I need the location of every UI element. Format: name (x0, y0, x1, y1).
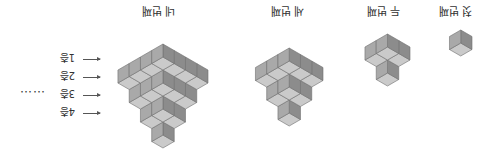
figure-4-label: 네 번째 (142, 4, 176, 20)
diagram-stage: 첫 번째 두 번째 세 번째 네 번째 4층 3층 2층 1층 …… (0, 0, 497, 160)
figure-4-cube-stack (115, 38, 210, 150)
figure-1-label: 첫 번째 (439, 4, 473, 20)
figure-3-label: 세 번째 (271, 4, 305, 20)
isometric-cubes (362, 32, 412, 88)
isometric-cubes (115, 42, 210, 150)
isometric-cubes (253, 46, 325, 128)
floor-label-2: 2층 (60, 69, 75, 84)
figure-3-cube-stack (253, 42, 325, 128)
floor-label-1: 1층 (60, 51, 75, 66)
isometric-cubes (447, 28, 474, 58)
continuation-ellipsis: …… (19, 88, 45, 102)
figure-2-label: 두 번째 (367, 4, 401, 20)
floor-label-4: 4층 (60, 105, 75, 120)
figure-1-cube-stack (447, 24, 474, 58)
floor-arrow-1 (83, 59, 100, 60)
floor-label-3: 3층 (60, 87, 75, 102)
floor-arrow-4 (83, 113, 100, 114)
floor-arrow-3 (83, 95, 100, 96)
figure-2-cube-stack (362, 28, 412, 88)
floor-arrow-2 (83, 77, 100, 78)
